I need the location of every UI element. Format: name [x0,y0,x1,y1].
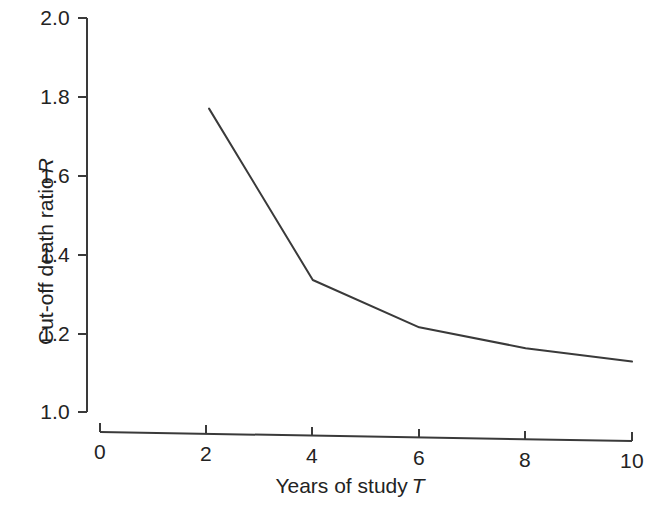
x-tick-label-4: 4 [306,444,318,468]
x-tick-label-6: 6 [413,446,425,470]
x-tick-label-10: 10 [620,449,644,473]
x-tick-label-0: 0 [94,440,106,464]
plot-canvas [0,0,646,506]
x-axis-spine [100,432,632,441]
x-tick-label-2: 2 [200,442,212,466]
y-axis-title-text: Cut-off death ratio [34,177,57,345]
x-tick-label-8: 8 [519,448,531,472]
data-line-series-0 [209,109,632,362]
y-tick-label-2.0: 2.0 [10,6,70,30]
y-axis-title-symbol: R [34,158,57,177]
x-axis-title: Years of studyT [275,474,424,498]
x-axis-title-text: Years of study [275,474,407,497]
y-tick-label-1.8: 1.8 [10,85,70,109]
x-axis-title-symbol: T [408,474,425,497]
y-tick-label-1.0: 1.0 [10,400,70,424]
y-axis-title: Cut-off death ratioR [34,158,58,345]
chart-figure: 2.0 1.8 1.6 1.4 1.2 1.0 0 2 4 6 8 10 Yea… [0,0,646,506]
